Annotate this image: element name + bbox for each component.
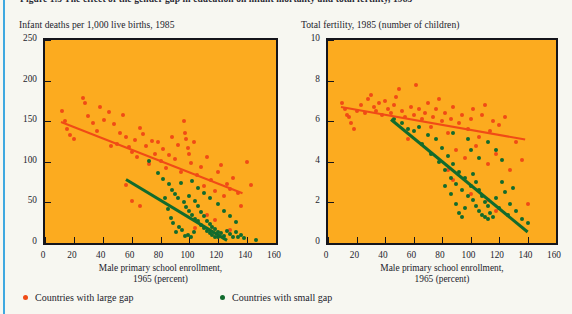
data-point <box>494 148 498 152</box>
data-point <box>443 184 447 188</box>
data-point <box>176 143 180 147</box>
data-point <box>219 163 223 167</box>
x-axis-label: 100 <box>180 250 194 260</box>
data-point <box>440 119 444 123</box>
data-point <box>102 118 106 122</box>
data-point <box>107 110 111 114</box>
data-point <box>451 105 455 109</box>
x-axis-label: 120 <box>490 250 504 260</box>
x-axis-label: 80 <box>154 250 163 260</box>
data-point <box>180 228 184 232</box>
data-point <box>446 131 450 135</box>
data-point <box>173 157 177 161</box>
data-point <box>383 99 387 103</box>
x-tick <box>385 237 386 243</box>
data-point <box>196 186 200 190</box>
data-point <box>477 135 481 139</box>
data-point <box>234 230 238 234</box>
data-point <box>98 105 102 109</box>
data-point <box>86 114 90 118</box>
data-point <box>400 109 404 113</box>
data-point <box>443 168 447 172</box>
data-point <box>426 101 430 105</box>
data-point <box>164 166 168 170</box>
data-point <box>249 183 253 187</box>
data-point <box>460 113 464 117</box>
x-axis-label: 60 <box>407 250 416 260</box>
data-point <box>451 131 455 135</box>
data-point <box>429 125 433 129</box>
data-point <box>153 152 157 156</box>
x-tick <box>528 237 529 243</box>
data-point <box>169 216 173 220</box>
x-axis-label: 160 <box>267 250 281 260</box>
x-tick <box>414 237 415 243</box>
data-point <box>414 83 418 87</box>
data-point <box>182 200 186 204</box>
panel-total-fertility: Total fertility, 1985 (number of childre… <box>296 0 572 314</box>
data-point <box>187 194 191 198</box>
y-tick <box>328 40 334 41</box>
data-point <box>449 117 453 121</box>
data-point <box>500 180 504 184</box>
data-point <box>460 215 464 219</box>
data-point <box>72 137 76 141</box>
data-point <box>239 204 243 208</box>
data-point <box>486 217 490 221</box>
y-axis-label: 4 <box>292 155 320 165</box>
data-point <box>196 204 200 208</box>
data-point <box>409 105 413 109</box>
data-point <box>184 137 188 141</box>
x-axis-label: 20 <box>350 250 359 260</box>
x-axis-label: 60 <box>125 250 134 260</box>
trend-line <box>61 121 244 194</box>
data-point <box>471 172 475 176</box>
data-point <box>474 144 478 148</box>
data-point <box>474 204 478 208</box>
data-point <box>95 129 99 133</box>
data-point <box>156 171 160 175</box>
data-point <box>454 148 458 152</box>
data-point <box>208 196 212 200</box>
data-point <box>124 183 128 187</box>
data-point <box>213 218 217 222</box>
x-axis-label: 160 <box>547 250 561 260</box>
data-point <box>412 113 416 117</box>
data-point <box>483 103 487 107</box>
panel-title-right: Total fertility, 1985 (number of childre… <box>301 19 460 30</box>
data-point <box>176 196 180 200</box>
data-point <box>440 146 444 150</box>
y-axis-label: 0 <box>9 236 37 246</box>
data-point <box>457 211 461 215</box>
y-axis-label: 150 <box>9 114 37 124</box>
y-tick <box>45 40 51 41</box>
panel-title-left: Infant deaths per 1,000 live births, 198… <box>19 19 175 30</box>
data-point <box>449 192 453 196</box>
data-point <box>451 162 455 166</box>
data-point <box>109 144 113 148</box>
x-axis-label: 40 <box>96 250 105 260</box>
data-point <box>454 202 458 206</box>
data-point <box>466 137 470 141</box>
data-point <box>508 202 512 206</box>
data-point <box>347 115 351 119</box>
y-tick <box>45 162 51 163</box>
panel-infant-mortality: Infant deaths per 1,000 live births, 198… <box>0 0 296 314</box>
x-tick <box>276 237 277 243</box>
data-point <box>394 95 398 99</box>
y-tick <box>45 121 51 122</box>
legend-item-small-gap: Countries with small gap <box>220 292 332 303</box>
data-point <box>186 146 190 150</box>
x-axis-label: 20 <box>67 250 76 260</box>
data-point <box>469 148 473 152</box>
x-axis-caption-left-line1: Male primary school enrollment, <box>99 263 222 273</box>
x-tick <box>328 237 329 243</box>
x-axis-caption-right: Male primary school enrollment, 1965 (pe… <box>326 263 558 285</box>
data-point <box>349 121 353 125</box>
data-point <box>434 107 438 111</box>
x-tick <box>471 237 472 243</box>
data-point <box>60 109 64 113</box>
data-point <box>340 101 344 105</box>
data-point <box>446 154 450 158</box>
data-point <box>183 234 187 238</box>
